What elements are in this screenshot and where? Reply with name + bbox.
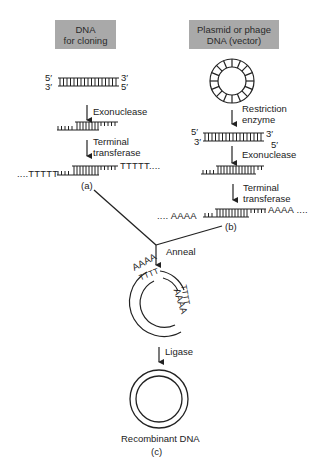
- right-end-3prime-top: 3′: [266, 128, 273, 139]
- plasmid-spoke: [245, 73, 252, 76]
- step-ligase: Ligase: [165, 346, 193, 357]
- plasmid-spoke: [237, 94, 240, 101]
- left-end-5prime-bottom: 5′: [121, 81, 128, 92]
- panel-label-c: (c): [151, 446, 162, 457]
- plasmid-spoke: [216, 65, 222, 71]
- left-tail-left: ....TTTTT: [17, 168, 58, 179]
- right-step-transferase: transferase: [243, 193, 291, 204]
- right-step-terminal: Terminal: [243, 182, 279, 193]
- right-dsdna-tailed: [203, 209, 266, 217]
- right-step-exonuclease: Exonuclease: [242, 149, 296, 160]
- recombinant-dna-label: Recombinant DNA: [121, 433, 200, 444]
- left-dsdna-tailed: [57, 166, 118, 175]
- panel-label-a: (a): [81, 180, 93, 191]
- left-step-transferase: transferase: [93, 147, 141, 158]
- right-end-3prime-bottom: 3′: [194, 136, 201, 147]
- plasmid-spoke: [242, 65, 248, 71]
- left-dsdna: [58, 78, 119, 86]
- right-step-enzyme: enzyme: [242, 114, 275, 125]
- step-anneal: Anneal: [166, 246, 196, 257]
- panel-label-b: (b): [225, 221, 237, 232]
- plasmid-spoke: [245, 86, 252, 89]
- left-step-exonuclease: Exonuclease: [93, 106, 147, 117]
- left-dsdna-exonuclease: [57, 122, 118, 130]
- plasmid-spoke: [224, 61, 227, 68]
- right-step-restriction: Restriction: [242, 103, 287, 114]
- vector-plasmid-circle: [210, 59, 254, 103]
- plasmid-spoke: [242, 91, 248, 97]
- merge-line-left: [94, 190, 156, 245]
- right-dsdna-linear: [203, 133, 264, 141]
- right-dsdna-exonuclease: [201, 166, 264, 174]
- plasmid-spoke: [224, 94, 227, 101]
- plasmid-spoke: [237, 61, 240, 68]
- merge-line-right: [156, 226, 222, 245]
- plasmid-spoke: [212, 73, 219, 76]
- left-end-3prime-bottom: 3′: [45, 81, 52, 92]
- recombinant-dna-circle: [130, 370, 188, 428]
- plasmid-spoke: [216, 91, 222, 97]
- plasmid-spoke: [212, 86, 219, 89]
- right-tail-left: .... AAAA: [157, 210, 197, 221]
- left-step-terminal: Terminal: [93, 136, 129, 147]
- right-tail-right: AAAA ....: [268, 204, 308, 215]
- left-tail-right: TTTTT....: [120, 160, 160, 171]
